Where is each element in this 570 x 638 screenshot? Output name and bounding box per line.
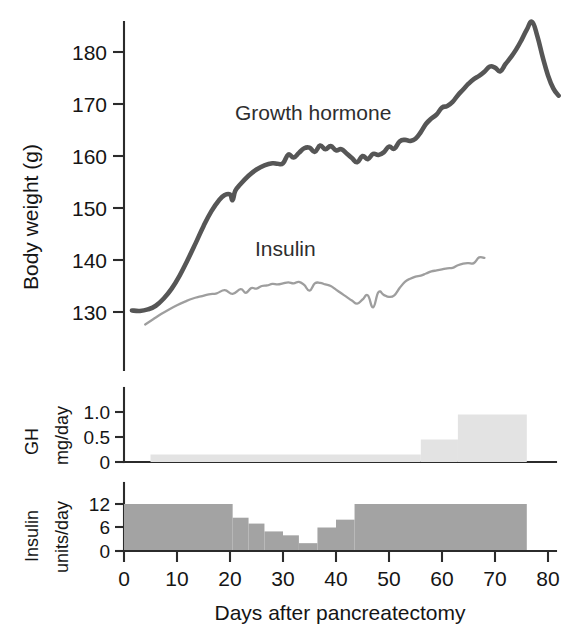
growth-hormone-line: [132, 22, 559, 311]
figure-container: 180 170 160 150 140 130 Body weight (g) …: [0, 0, 570, 638]
insulin-step-bar: [264, 531, 283, 551]
x-tick-label-60: 60: [430, 567, 453, 590]
y-tick-label-170: 170: [72, 93, 107, 116]
x-tick-label-30: 30: [271, 567, 294, 590]
insulin-y-tick-label-6: 6: [99, 517, 110, 538]
insulin-y-axis-title-line2: units/day: [52, 501, 72, 573]
body-weight-y-ticks: [113, 52, 124, 312]
insulin-y-axis-title-line1: Insulin: [22, 510, 42, 562]
x-tick-label-80: 80: [536, 567, 559, 590]
chart-svg: 180 170 160 150 140 130 Body weight (g) …: [0, 0, 570, 638]
y-tick-label-180: 180: [72, 41, 107, 64]
gh-step-bars: [151, 415, 527, 463]
insulin-step-bar: [355, 504, 527, 551]
insulin-step-bar: [283, 535, 299, 551]
y-tick-label-140: 140: [72, 249, 107, 272]
gh-y-tick-label-0: 0: [99, 452, 110, 473]
x-tick-label-20: 20: [218, 567, 241, 590]
insulin-y-tick-label-0: 0: [99, 541, 110, 562]
body-weight-panel: 180 170 160 150 140 130 Body weight (g) …: [19, 22, 559, 370]
x-tick-label-70: 70: [483, 567, 506, 590]
gh-step-bar: [151, 455, 421, 463]
y-axis-title: Body weight (g): [19, 144, 42, 290]
gh-y-axis-title-line1: GH: [22, 428, 42, 455]
insulin-step-bar: [317, 528, 336, 552]
y-tick-label-160: 160: [72, 145, 107, 168]
y-tick-label-150: 150: [72, 197, 107, 220]
insulin-y-tick-label-12: 12: [89, 494, 110, 515]
insulin-line: [145, 257, 484, 324]
y-tick-label-130: 130: [72, 301, 107, 324]
insulin-step-bars: [124, 504, 527, 551]
gh-y-axis-title-line2: mg/day: [52, 406, 72, 465]
insulin-step-bar: [299, 543, 318, 551]
insulin-step-bar: [233, 518, 249, 551]
insulin-step-bar: [336, 520, 355, 551]
gh-y-tick-label-0-5: 0.5: [84, 427, 110, 448]
x-axis-tick-labels: 01020304050607080: [118, 567, 560, 590]
annotation-growth-hormone: Growth hormone: [235, 101, 391, 124]
x-tick-label-0: 0: [118, 567, 130, 590]
gh-step-bar: [458, 415, 527, 463]
gh-panel: 1.0 0.5 0 GH mg/day: [22, 388, 556, 473]
insulin-step-bar: [124, 504, 233, 551]
x-tick-label-40: 40: [324, 567, 347, 590]
insulin-step-bar: [249, 524, 265, 551]
gh-y-tick-label-1: 1.0: [84, 402, 110, 423]
gh-step-bar: [421, 440, 458, 463]
x-tick-label-50: 50: [377, 567, 400, 590]
x-tick-label-10: 10: [165, 567, 188, 590]
x-axis-ticks: [124, 551, 548, 562]
annotation-insulin: Insulin: [255, 237, 316, 260]
x-axis-title: Days after pancreatectomy: [215, 601, 466, 624]
insulin-panel: 12 6 0 Insulin units/day 010203040506070…: [22, 483, 560, 624]
